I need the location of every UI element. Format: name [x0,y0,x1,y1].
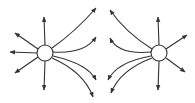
left-charge-field-line-up-left [15,33,38,49]
left-charge-field-line-down [44,61,45,90]
left-charge [37,45,53,61]
right-charge-field-line-left-up-near [110,38,151,52]
left-charge-field-line-right-up-far [52,8,96,48]
left-charge-field-line-right-up-near [53,37,96,52]
left-charge-field-line-up [44,17,45,45]
left-charge-field-line-right-down-near [53,56,96,80]
field-lines-diagram [0,0,195,103]
right-charge-field-line-down-right [166,58,185,72]
right-charge-field-line-up-right [166,35,187,49]
left-charge-field-line-down-left [15,57,38,73]
right-charge [151,45,167,61]
right-charge-field-line-down [158,61,159,90]
charges [37,45,167,61]
right-charge-field-line-up [158,17,159,45]
right-charge-field-line-left-down-near [108,56,151,80]
right-charge-field-line-left-up-far [110,10,152,49]
left-charge-field-line-right-down-far [52,58,93,97]
left-charge-field-line-left [10,52,37,53]
right-charge-field-line-left-down-far [111,58,152,93]
